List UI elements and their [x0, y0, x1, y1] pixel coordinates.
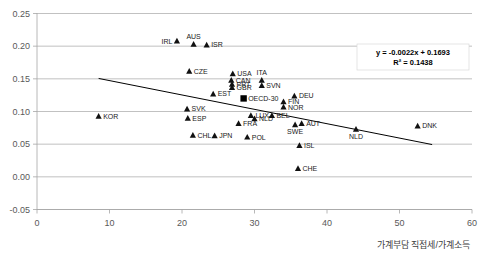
- marker-triangle: [204, 42, 210, 48]
- data-point: ITA: [257, 69, 268, 83]
- marker-triangle: [296, 142, 302, 148]
- data-point-label: SVN: [266, 82, 280, 89]
- data-point: AUS: [186, 33, 201, 47]
- data-point: CZE: [186, 68, 208, 75]
- marker-triangle: [230, 71, 236, 77]
- data-point-label: DNK: [422, 122, 437, 129]
- data-point-label: OECD-30: [248, 95, 278, 102]
- y-axis-tick-label: 0.00: [12, 172, 30, 182]
- equation-annotation: y = -0.0022x + 0.1693 R² = 0.1438: [357, 44, 469, 70]
- x-axis-tick-labels: 0102030405060: [34, 218, 477, 228]
- data-point: CHE: [295, 165, 318, 172]
- y-axis-tick-label: 0.15: [12, 74, 30, 84]
- y-axis-tick-label: 0.25: [12, 9, 30, 19]
- scatter-chart: 0.250.200.150.100.050.00-0.05 0102030405…: [0, 0, 482, 260]
- marker-triangle: [292, 121, 298, 127]
- data-point: FRA: [235, 120, 257, 127]
- marker-triangle: [248, 112, 254, 118]
- x-axis-title: 가계부담 직접세/가계소득: [377, 239, 470, 250]
- y-axis-tick-label: 0.10: [12, 107, 30, 117]
- marker-triangle: [186, 68, 192, 74]
- data-point-label: NLD: [349, 133, 363, 140]
- data-point: POL: [244, 134, 266, 141]
- data-point: ISR: [204, 41, 223, 48]
- y-axis-tick-label: 0.20: [12, 41, 30, 51]
- data-point: AUT: [299, 120, 321, 127]
- data-point: GBR: [229, 84, 252, 91]
- data-point-label: KOR: [103, 113, 118, 120]
- data-point-label: ESP: [192, 115, 206, 122]
- marker-triangle: [212, 133, 218, 139]
- data-point-label: SWE: [287, 128, 303, 135]
- marker-triangle: [184, 106, 190, 112]
- data-point-label: JPN: [219, 132, 232, 139]
- data-point: DNK: [415, 122, 438, 129]
- data-point: JPN: [212, 132, 233, 139]
- data-point-label: AUS: [186, 33, 201, 40]
- marker-triangle: [174, 38, 180, 44]
- data-point-label: CHL: [197, 132, 211, 139]
- data-point: SVN: [259, 82, 281, 89]
- marker-triangle: [185, 115, 191, 121]
- x-axis-tick-label: 20: [177, 218, 187, 228]
- x-axis-tick-label: 40: [322, 218, 332, 228]
- data-point-label: BEL: [276, 112, 289, 119]
- x-axis-tick-label: 0: [34, 218, 39, 228]
- marker-triangle: [415, 123, 421, 129]
- data-point-label: NOR: [288, 104, 304, 111]
- marker-triangle: [259, 82, 265, 88]
- data-point-label: AUT: [306, 120, 321, 127]
- marker-triangle: [235, 120, 241, 126]
- equation-label: y = -0.0022x + 0.1693: [376, 48, 450, 57]
- data-point: IRL: [162, 38, 181, 45]
- marker-triangle: [96, 113, 102, 119]
- data-point-label: EST: [218, 90, 232, 97]
- x-axis-tick-label: 30: [249, 218, 259, 228]
- r-squared-label: R² = 0.1438: [393, 58, 432, 67]
- marker-triangle: [259, 77, 265, 83]
- data-point-label: DEU: [299, 92, 314, 99]
- marker-square: [240, 95, 246, 101]
- data-point: SVK: [184, 105, 206, 112]
- data-point: EST: [210, 90, 232, 97]
- data-point: ESP: [185, 115, 207, 122]
- y-axis-tick-labels: 0.250.200.150.100.050.00-0.05: [9, 9, 30, 215]
- data-point: BEL: [269, 112, 290, 119]
- x-axis-tick-label: 50: [394, 218, 404, 228]
- marker-triangle: [210, 91, 216, 97]
- marker-triangle: [190, 132, 196, 138]
- marker-triangle: [244, 134, 250, 140]
- x-axis-tick-label: 10: [104, 218, 114, 228]
- marker-triangle: [228, 77, 234, 83]
- y-axis-tick-label: 0.05: [12, 139, 30, 149]
- data-point-label: GBR: [237, 84, 252, 91]
- marker-triangle: [295, 165, 301, 171]
- data-point-label: ISL: [304, 142, 315, 149]
- y-axis-tick-label: -0.05: [9, 205, 30, 215]
- data-point-label: SVK: [192, 105, 206, 112]
- data-point: NOR: [280, 104, 303, 111]
- data-point: ISL: [296, 142, 314, 149]
- marker-triangle: [280, 99, 286, 105]
- data-point: OECD-30: [240, 95, 278, 102]
- x-axis-tick-label: 60: [467, 218, 477, 228]
- marker-triangle: [299, 120, 305, 126]
- chart-canvas: 0.250.200.150.100.050.00-0.05 0102030405…: [0, 0, 482, 260]
- data-point-label: IRL: [162, 38, 173, 45]
- marker-triangle: [191, 41, 197, 47]
- data-point-label: POL: [252, 134, 266, 141]
- data-point-label: ISR: [211, 41, 223, 48]
- data-point-label: ITA: [257, 69, 268, 76]
- data-point-label: FRA: [243, 120, 257, 127]
- data-point-label: CZE: [194, 68, 208, 75]
- data-point-label: CHE: [303, 165, 318, 172]
- data-point: KOR: [96, 113, 119, 120]
- marker-triangle: [280, 104, 286, 110]
- data-point: CHL: [190, 132, 212, 139]
